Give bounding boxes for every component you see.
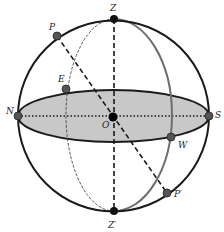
label-o: O <box>102 120 110 130</box>
point-z <box>110 15 118 23</box>
point-z-prime <box>110 207 118 215</box>
point-n <box>14 112 22 120</box>
celestial-sphere-diagram: Z Z′ N S E W O P P′ <box>0 0 224 232</box>
label-s: S <box>215 110 221 120</box>
label-w: W <box>178 140 188 150</box>
point-o <box>109 113 118 122</box>
label-e: E <box>57 74 65 84</box>
label-z: Z <box>109 3 117 13</box>
point-p <box>53 32 61 40</box>
label-z-prime: Z′ <box>107 220 116 230</box>
point-e <box>62 85 70 93</box>
label-n: N <box>5 106 15 116</box>
label-p: P <box>48 22 56 32</box>
point-w <box>167 133 175 141</box>
label-p-prime: P′ <box>173 189 182 199</box>
point-p-prime <box>163 189 171 197</box>
point-s <box>205 112 213 120</box>
